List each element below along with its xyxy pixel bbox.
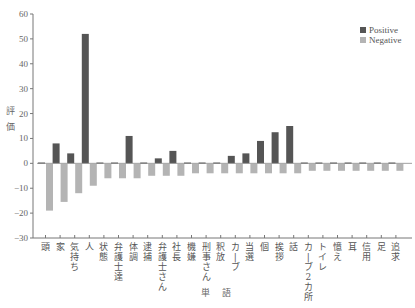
x-category-label: え [333, 252, 342, 262]
legend-swatch [360, 27, 366, 33]
x-category-label: ん [158, 282, 167, 292]
x-category-label: 追 [391, 241, 400, 252]
negative-bar [192, 164, 199, 173]
x-category-label: 求 [391, 251, 400, 262]
positive-bar [53, 143, 60, 163]
negative-bar [265, 164, 272, 173]
x-category-label: ん [202, 272, 211, 282]
negative-bar [353, 164, 360, 171]
y-tick-label: −20 [14, 208, 29, 218]
y-axis: 6050403020100−10−20−30 [14, 9, 33, 243]
x-category-label: さ [202, 262, 211, 272]
y-tick-label: −10 [14, 183, 29, 193]
positive-bar [67, 153, 74, 163]
x-category-label: 長 [172, 252, 181, 262]
legend-label: Negative [369, 35, 401, 45]
negative-bar [90, 164, 97, 186]
negative-bar [236, 164, 243, 173]
negative-bar [367, 164, 374, 171]
bars [38, 34, 403, 211]
legend-label: Positive [369, 25, 398, 35]
x-category-label: 所 [304, 292, 313, 302]
x-category-label: レ [318, 262, 327, 272]
positive-bar [228, 156, 235, 163]
negative-bar [250, 164, 257, 173]
x-category-label: 機 [187, 241, 196, 252]
x-category-label: カ [304, 242, 313, 252]
x-category-label: 信 [362, 241, 371, 252]
bar-chart: 6050403020100−10−20−30 頭家気持ち人状態弁護士達体調逮捕弁… [0, 0, 415, 308]
x-category-label: 家 [56, 241, 65, 252]
x-category-label: カ [231, 242, 240, 252]
y-tick-label: 20 [19, 109, 29, 119]
y-tick-label: 0 [24, 158, 29, 168]
positive-bar [155, 158, 162, 163]
negative-bar [104, 164, 111, 178]
x-category-label: 2 [305, 272, 311, 282]
y-axis-title: 評 [6, 105, 15, 116]
negative-bar [309, 164, 316, 171]
negative-bar [119, 164, 126, 178]
negative-bar [134, 164, 141, 178]
positive-bar [169, 151, 176, 163]
x-category-label: 放 [216, 251, 225, 262]
x-category-label: 釈 [216, 241, 225, 252]
x-category-label: 状 [99, 241, 108, 252]
x-category-label: 士 [158, 261, 167, 272]
x-category-label: イ [318, 252, 327, 262]
negative-bar [207, 164, 214, 173]
x-category-label: 嫌 [187, 251, 196, 262]
legend: PositiveNegative [360, 25, 401, 45]
negative-bar [323, 164, 330, 171]
x-category-label: ち [70, 262, 79, 272]
x-axis-title: 単語 [201, 287, 243, 298]
negative-bar [163, 164, 170, 176]
x-category-label: 社 [172, 241, 181, 252]
x-category-label: 弁 [158, 241, 167, 252]
legend-swatch [360, 37, 366, 43]
x-category-label: 用 [362, 252, 371, 262]
x-category-label: ブ [304, 261, 313, 272]
y-axis-title: 価 [6, 121, 15, 132]
negative-bar [148, 164, 155, 176]
negative-bar [294, 164, 301, 173]
x-category-label: 挨 [275, 241, 284, 252]
y-tick-label: 10 [19, 133, 29, 143]
y-tick-label: 50 [19, 34, 29, 44]
positive-bar [242, 153, 249, 163]
negative-bar [46, 164, 53, 211]
negative-bar [280, 164, 287, 173]
x-category-label: 捕 [143, 251, 152, 262]
y-tick-label: 30 [19, 84, 29, 94]
x-category-label: さ [158, 272, 167, 282]
x-category-label: 護 [114, 251, 123, 262]
x-category-label: 持 [70, 251, 79, 262]
y-tick-label: 60 [19, 9, 29, 19]
y-tick-label: −30 [14, 233, 29, 243]
x-category-label: 調 [129, 251, 138, 262]
positive-bar [257, 141, 264, 163]
positive-bar [82, 34, 89, 163]
negative-bar [177, 164, 184, 176]
x-category-label: カ [304, 282, 313, 292]
negative-bar [61, 164, 68, 202]
x-category-label: 拶 [275, 251, 284, 262]
x-category-label: 気 [70, 241, 79, 252]
x-category-label: 憶 [333, 241, 342, 252]
negative-bar [382, 164, 389, 171]
positive-bar [286, 126, 293, 163]
x-category-label: 耳 [348, 242, 357, 252]
positive-bar [126, 136, 133, 163]
x-category-label: 護 [158, 251, 167, 262]
x-category-label: 逮 [143, 241, 152, 252]
x-category-label: 態 [99, 251, 108, 262]
x-category-label: 個 [260, 241, 269, 252]
x-category-label: 話 [289, 241, 298, 252]
negative-bar [396, 164, 403, 171]
x-category-label: 事 [202, 251, 211, 262]
x-category-label: 弁 [114, 241, 123, 252]
y-tick-label: 40 [19, 59, 29, 69]
x-category-label: ト [318, 242, 327, 252]
x-category-label: 体 [129, 241, 138, 252]
x-category-label: 選 [245, 252, 254, 262]
